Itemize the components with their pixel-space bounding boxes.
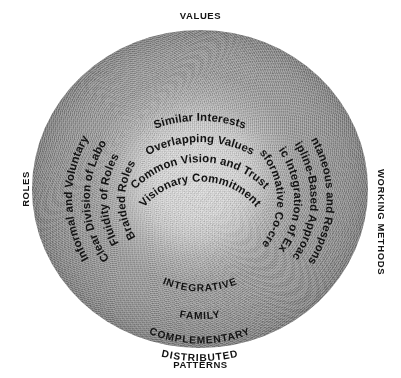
axis-label-values: VALUES xyxy=(0,10,401,21)
axis-label-roles: ROLES xyxy=(20,171,31,207)
arc-label-family: FAMILY xyxy=(179,308,221,321)
arc-label-visionary-commitment: Visionary Commitment xyxy=(136,171,263,208)
arc-label-integrative: INTEGRATIVE xyxy=(161,275,238,293)
arc-label-similar-interests: Similar Interests xyxy=(152,111,248,131)
diagram-canvas: VALUES PATTERNS ROLES WORKING METHODS xyxy=(0,0,401,378)
axis-label-working-methods: WORKING METHODS xyxy=(376,169,387,209)
arc-text-layer: Similar Interests Overlapping Values Com… xyxy=(32,30,368,348)
arc-label-braided-roles: Braided Roles xyxy=(115,158,137,243)
arc-label-complementary: COMPLEMENTARY xyxy=(148,325,252,345)
circle-diagram: Similar Interests Overlapping Values Com… xyxy=(32,30,368,348)
arc-label-dynamic-integration-of-expertise: Dynamic Integration of Expertise xyxy=(27,20,304,255)
